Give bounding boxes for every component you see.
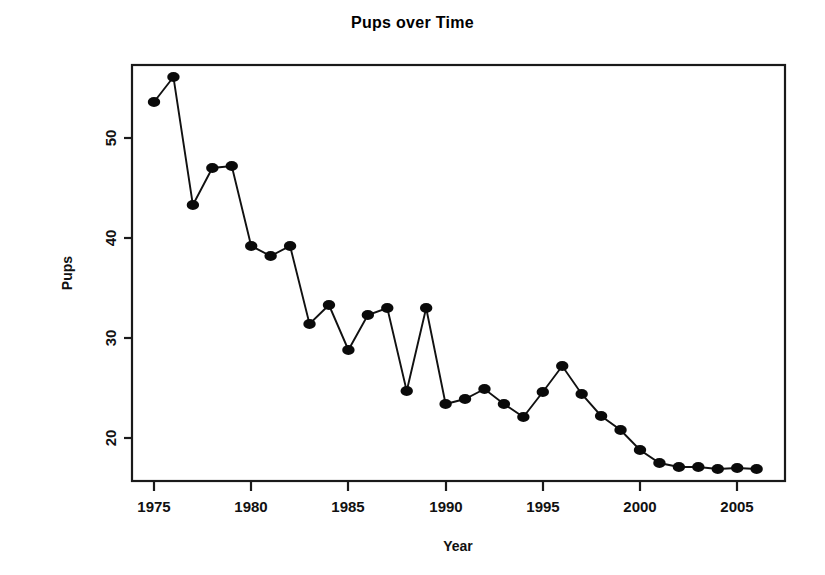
x-tick-label-1985: 1985 xyxy=(331,498,364,515)
data-point xyxy=(148,97,160,107)
data-point xyxy=(206,163,218,173)
data-point xyxy=(303,319,315,329)
x-tick-label-2005: 2005 xyxy=(720,498,753,515)
plot-frame xyxy=(132,65,785,481)
x-tick-label-1975: 1975 xyxy=(137,498,170,515)
x-axis-ticks xyxy=(154,481,737,491)
data-point xyxy=(342,345,354,355)
chart-figure: Pups over Time 50 40 30 20 Pups xyxy=(0,0,825,575)
x-tick-label-1995: 1995 xyxy=(526,498,559,515)
y-tick-label-20: 20 xyxy=(102,430,119,447)
data-point xyxy=(323,300,335,310)
series-line-pups xyxy=(154,77,757,469)
data-point xyxy=(498,399,510,409)
data-point xyxy=(401,386,413,396)
data-point xyxy=(478,384,490,394)
data-point xyxy=(264,251,276,261)
data-point xyxy=(556,361,568,371)
data-point xyxy=(284,241,296,251)
y-tick-label-50: 50 xyxy=(102,130,119,147)
y-axis-title: Pups xyxy=(59,256,75,290)
x-tick-label-2000: 2000 xyxy=(623,498,656,515)
data-point xyxy=(673,462,685,472)
data-point xyxy=(362,310,374,320)
data-point xyxy=(653,458,665,468)
data-point xyxy=(692,462,704,472)
data-point xyxy=(439,399,451,409)
x-axis-tick-labels: 1975 1980 1985 1990 1995 2000 2005 xyxy=(137,498,753,515)
data-point xyxy=(731,463,743,473)
data-point xyxy=(750,464,762,474)
data-point xyxy=(187,200,199,210)
y-tick-label-40: 40 xyxy=(102,230,119,247)
y-axis-ticks xyxy=(124,138,132,438)
data-point xyxy=(167,72,179,82)
data-point xyxy=(381,303,393,313)
x-axis-title: Year xyxy=(443,538,473,554)
data-point xyxy=(459,394,471,404)
y-tick-label-30: 30 xyxy=(102,330,119,347)
data-point xyxy=(517,412,529,422)
data-point xyxy=(575,389,587,399)
data-point xyxy=(245,241,257,251)
data-point xyxy=(634,445,646,455)
data-point xyxy=(226,161,238,171)
data-point xyxy=(537,387,549,397)
y-axis-tick-labels: 50 40 30 20 xyxy=(102,130,119,447)
x-tick-label-1980: 1980 xyxy=(234,498,267,515)
series-points-pups xyxy=(148,72,763,474)
x-tick-label-1990: 1990 xyxy=(429,498,462,515)
data-point xyxy=(595,411,607,421)
data-point xyxy=(614,425,626,435)
data-point xyxy=(420,303,432,313)
data-point xyxy=(712,464,724,474)
plot-area: 50 40 30 20 Pups 1975 1980 1985 1990 199… xyxy=(0,0,825,575)
